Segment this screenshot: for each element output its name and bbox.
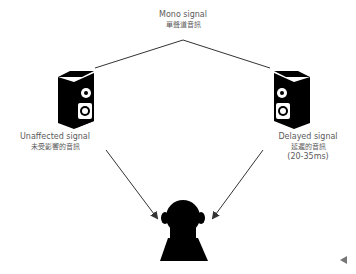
mono-signal-label: Mono signal 單聲道音訊	[143, 10, 223, 30]
delayed-signal-en: Delayed signal	[268, 132, 348, 142]
split-lines	[95, 40, 270, 68]
prev-button[interactable]	[338, 250, 348, 260]
arrow-left-icon	[338, 255, 348, 265]
mono-signal-zh: 單聲道音訊	[143, 20, 223, 30]
unaffected-signal-zh: 未受影響的音訊	[10, 142, 100, 152]
delayed-signal-label: Delayed signal 延遲的音訊 (20-35ms)	[268, 132, 348, 162]
speaker-icon	[58, 71, 94, 129]
speaker-icon	[274, 71, 310, 129]
delayed-signal-zh: 延遲的音訊	[268, 142, 348, 152]
mono-signal-en: Mono signal	[143, 10, 223, 20]
person-icon	[160, 200, 208, 261]
unaffected-signal-en: Unaffected signal	[10, 132, 100, 142]
delay-range: (20-35ms)	[268, 152, 348, 162]
unaffected-signal-label: Unaffected signal 未受影響的音訊	[10, 132, 100, 152]
